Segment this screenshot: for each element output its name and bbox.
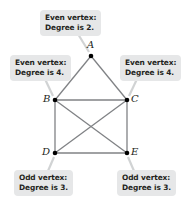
vertex-c <box>125 98 130 103</box>
callout-c-line2: Degree is 4. <box>125 68 176 78</box>
callout-b-line2: Degree is 4. <box>15 68 66 78</box>
callout-c: Even vertex: Degree is 4. <box>120 55 181 81</box>
callout-c-line1: Even vertex: <box>125 58 176 68</box>
callout-e-line2: Degree is 3. <box>122 183 171 193</box>
callout-e: Odd vertex: Degree is 3. <box>117 170 176 196</box>
callout-b-line1: Even vertex: <box>15 58 66 68</box>
pointer-d <box>48 157 54 171</box>
callout-a-line2: Degree is 2. <box>45 23 96 33</box>
vertex-e <box>125 151 130 156</box>
vertex-label-c: C <box>131 93 139 104</box>
callout-d: Odd vertex: Degree is 3. <box>14 170 73 196</box>
vertex-b <box>53 98 58 103</box>
callout-d-line2: Degree is 3. <box>19 183 68 193</box>
vertex-label-a: A <box>87 39 94 50</box>
vertex-label-e: E <box>131 146 138 157</box>
callout-d-line1: Odd vertex: <box>19 173 68 183</box>
callout-a-line1: Even vertex: <box>45 13 96 23</box>
callout-e-line1: Odd vertex: <box>122 173 171 183</box>
vertex-d <box>53 151 58 156</box>
pointer-e <box>128 157 134 171</box>
callout-a: Even vertex: Degree is 2. <box>40 10 101 36</box>
vertex-label-b: B <box>43 93 50 104</box>
callout-b: Even vertex: Degree is 4. <box>10 55 71 81</box>
vertex-a <box>89 54 94 59</box>
vertex-label-d: D <box>42 146 50 157</box>
